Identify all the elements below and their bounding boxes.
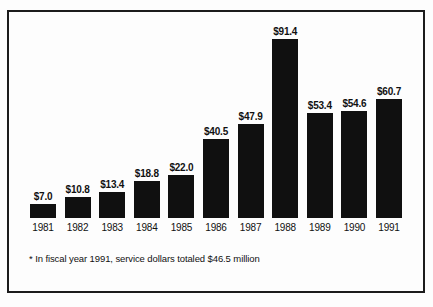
bar-category-label: 1984 [136, 222, 157, 233]
bar-value-label: $54.6 [342, 98, 366, 109]
bar-column-1983[interactable]: $13.41983 [99, 192, 125, 218]
bar-column-1989[interactable]: $53.41989 [307, 113, 333, 218]
bar-category-label: 1990 [344, 222, 365, 233]
bar-category-label: 1989 [309, 222, 330, 233]
bar-category-label: 1988 [274, 222, 295, 233]
bar-category-label: 1981 [32, 222, 53, 233]
bar-value-label: $60.7 [377, 86, 401, 97]
bar-column-1991[interactable]: $60.71991 [376, 99, 402, 218]
bar-rect[interactable] [307, 113, 333, 218]
bar-column-1981[interactable]: $7.01981 [30, 204, 56, 218]
bar-column-1985[interactable]: $22.01985 [168, 175, 194, 218]
bar-chart-plot-area: $7.01981$10.81982$13.41983$18.81984$22.0… [9, 12, 423, 291]
chart-page: $7.01981$10.81982$13.41983$18.81984$22.0… [0, 0, 433, 307]
bar-value-label: $22.0 [169, 162, 193, 173]
bar-category-label: 1983 [101, 222, 122, 233]
chart-frame: $7.01981$10.81982$13.41983$18.81984$22.0… [7, 10, 425, 293]
bar-value-label: $10.8 [66, 184, 90, 195]
chart-footnote: * In fiscal year 1991, service dollars t… [29, 253, 260, 264]
bar-column-1984[interactable]: $18.81984 [134, 181, 160, 218]
bar-category-label: 1985 [171, 222, 192, 233]
bar-column-1990[interactable]: $54.61990 [341, 111, 367, 218]
bar-column-1982[interactable]: $10.81982 [65, 197, 91, 218]
bar-value-label: $47.9 [239, 111, 263, 122]
bar-rect[interactable] [341, 111, 367, 218]
bar-rect[interactable] [168, 175, 194, 218]
bar-value-label: $91.4 [273, 26, 297, 37]
clipped-title-fragment [0, 0, 433, 4]
bar-value-label: $18.8 [135, 168, 159, 179]
bar-category-label: 1987 [240, 222, 261, 233]
bar-column-1987[interactable]: $47.91987 [238, 124, 264, 218]
bar-value-label: $53.4 [308, 100, 332, 111]
bar-value-label: $40.5 [204, 126, 228, 137]
bar-value-label: $13.4 [100, 179, 124, 190]
bar-rect[interactable] [238, 124, 264, 218]
bar-rect[interactable] [99, 192, 125, 218]
bar-category-label: 1982 [67, 222, 88, 233]
bar-category-label: 1991 [378, 222, 399, 233]
bar-rect[interactable] [203, 139, 229, 218]
bar-column-1986[interactable]: $40.51986 [203, 139, 229, 218]
bar-rect[interactable] [30, 204, 56, 218]
bar-value-label: $7.0 [34, 191, 53, 202]
bar-rect[interactable] [65, 197, 91, 218]
bar-rect[interactable] [376, 99, 402, 218]
bar-column-1988[interactable]: $91.41988 [272, 39, 298, 218]
bar-category-label: 1986 [205, 222, 226, 233]
bar-rect[interactable] [134, 181, 160, 218]
bar-rect[interactable] [272, 39, 298, 218]
